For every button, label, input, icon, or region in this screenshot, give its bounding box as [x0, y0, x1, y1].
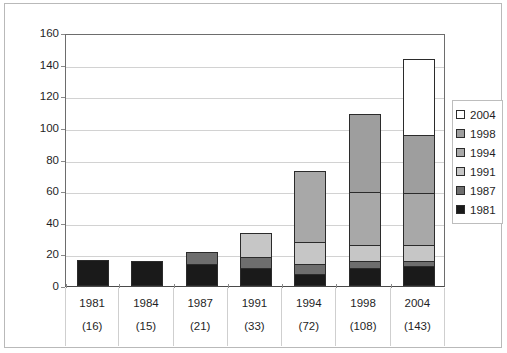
bar-segment-1987[interactable]	[349, 261, 381, 268]
bar-column	[283, 33, 337, 286]
bar-column	[229, 33, 283, 286]
legend-swatch-icon	[456, 186, 465, 195]
x-axis-cell: 1991(33)	[228, 288, 282, 346]
x-axis-total-label: (143)	[391, 320, 444, 332]
stacked-bar[interactable]	[186, 33, 218, 286]
legend-item-label: 1987	[470, 185, 496, 197]
legend-item-label: 1998	[470, 128, 496, 140]
x-axis-cell: 1998(108)	[336, 288, 390, 346]
x-axis-year-label: 1987	[174, 297, 227, 309]
x-axis-cell: 1994(72)	[282, 288, 336, 346]
bar-segment-1991[interactable]	[240, 233, 272, 258]
legend-item-label: 1991	[470, 166, 496, 178]
stacked-bar[interactable]	[349, 33, 381, 286]
bar-segment-1991[interactable]	[349, 245, 381, 262]
stacked-bar[interactable]	[240, 33, 272, 286]
stacked-bar[interactable]	[294, 33, 326, 286]
bar-segment-1998[interactable]	[403, 135, 435, 195]
x-axis-total-label: (16)	[66, 320, 118, 332]
chart-legend: 200419981994199119871981	[452, 100, 503, 224]
stacked-bar[interactable]	[131, 33, 163, 286]
stacked-bar[interactable]	[77, 33, 109, 286]
bar-segment-1981[interactable]	[240, 268, 272, 286]
legend-swatch-icon	[456, 148, 465, 157]
x-axis-total-label: (108)	[336, 320, 389, 332]
legend-item-2004[interactable]: 2004	[456, 105, 502, 124]
y-axis-tick-label: 60	[46, 186, 59, 197]
bar-segment-1981[interactable]	[77, 260, 109, 286]
bar-segment-1994[interactable]	[349, 192, 381, 247]
x-axis-year-label: 2004	[391, 297, 444, 309]
bar-segment-1987[interactable]	[294, 264, 326, 274]
bar-segment-1981[interactable]	[403, 266, 435, 286]
bar-segment-1981[interactable]	[294, 274, 326, 286]
chart-title	[5, 0, 503, 5]
bar-column	[337, 33, 391, 286]
x-axis-year-label: 1991	[228, 297, 281, 309]
legend-item-1998[interactable]: 1998	[456, 124, 502, 143]
legend-item-1987[interactable]: 1987	[456, 181, 502, 200]
plot-area	[65, 34, 445, 287]
legend-swatch-icon	[456, 129, 465, 138]
bar-column	[66, 33, 120, 286]
x-axis-cell: 1981(16)	[65, 288, 119, 346]
x-axis-tick-mark	[228, 284, 229, 288]
x-axis-year-label: 1984	[119, 297, 172, 309]
x-axis: 1981(16)1984(15)1987(21)1991(33)1994(72)…	[65, 288, 445, 346]
bar-segment-1987[interactable]	[240, 257, 272, 269]
bar-segment-1981[interactable]	[349, 268, 381, 286]
x-axis-total-label: (72)	[282, 320, 335, 332]
bar-segment-1981[interactable]	[186, 264, 218, 286]
x-axis-total-label: (33)	[228, 320, 281, 332]
x-axis-total-label: (15)	[119, 320, 172, 332]
x-axis-cell: 1984(15)	[119, 288, 173, 346]
legend-swatch-icon	[456, 167, 465, 176]
bar-column	[175, 33, 229, 286]
x-axis-cell: 2004(143)	[391, 288, 445, 346]
y-axis-tick-label: 160	[40, 28, 59, 39]
y-axis-tick-label: 140	[40, 60, 59, 71]
legend-item-label: 2004	[470, 109, 496, 121]
x-axis-year-label: 1994	[282, 297, 335, 309]
bar-segment-1998[interactable]	[349, 114, 381, 192]
y-axis-tick-label: 80	[46, 155, 59, 166]
x-axis-year-label: 1981	[66, 297, 118, 309]
bar-segment-1991[interactable]	[403, 245, 435, 262]
bar-segment-1987[interactable]	[186, 252, 218, 266]
legend-item-label: 1981	[470, 204, 496, 216]
x-axis-cell: 1987(21)	[174, 288, 228, 346]
legend-swatch-icon	[456, 110, 465, 119]
x-axis-tick-mark	[66, 284, 67, 288]
y-axis-tick-label: 0	[53, 281, 59, 292]
x-axis-tick-mark	[119, 284, 120, 288]
legend-swatch-icon	[456, 205, 465, 214]
bar-segment-1991[interactable]	[294, 242, 326, 265]
bar-column	[120, 33, 174, 286]
y-axis-tick-label: 100	[40, 123, 59, 134]
x-axis-year-label: 1998	[336, 297, 389, 309]
x-axis-tick-mark	[336, 284, 337, 288]
x-axis-tick-mark	[174, 284, 175, 288]
legend-item-1991[interactable]: 1991	[456, 162, 502, 181]
y-axis: 160140120100806040200	[5, 4, 65, 317]
legend-item-1981[interactable]: 1981	[456, 200, 502, 219]
bar-segment-2004[interactable]	[403, 59, 435, 136]
bar-segment-1981[interactable]	[131, 261, 163, 286]
bar-segment-1994[interactable]	[294, 171, 326, 243]
y-axis-tick-label: 20	[46, 249, 59, 260]
stacked-bar[interactable]	[403, 33, 435, 286]
y-axis-tick-label: 40	[46, 218, 59, 229]
legend-item-1994[interactable]: 1994	[456, 143, 502, 162]
bar-column	[392, 33, 446, 286]
x-axis-tick-mark	[282, 284, 283, 288]
x-axis-tick-mark	[391, 284, 392, 288]
y-axis-tick-label: 120	[40, 91, 59, 102]
legend-item-label: 1994	[470, 147, 496, 159]
chart-container: 160140120100806040200 1981(16)1984(15)19…	[4, 3, 502, 348]
bar-segment-1994[interactable]	[403, 193, 435, 246]
x-axis-total-label: (21)	[174, 320, 227, 332]
